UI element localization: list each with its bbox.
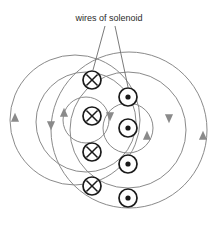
- dot-icon: [125, 125, 130, 130]
- dot-icon: [125, 161, 130, 166]
- wire-into-page-symbol-2: [83, 107, 101, 125]
- caption-wires-of-solenoid: wires of solenoid: [74, 13, 142, 23]
- arrow-far-right-up: [199, 131, 207, 140]
- wire-out-of-page-symbol-1: [119, 88, 137, 106]
- leader-to-cross-wire: [93, 26, 105, 70]
- wire-into-page-symbol-3: [83, 143, 101, 161]
- leader-to-dot-wire: [115, 26, 128, 87]
- wire-out-of-page-symbol-2: [119, 119, 137, 137]
- dot-icon: [125, 195, 130, 200]
- magnetic-field-lines-group: [10, 52, 207, 208]
- dot-icon: [125, 94, 130, 99]
- arrow-inner-right-down: [106, 112, 114, 121]
- arrow-inner-left-up: [60, 108, 68, 117]
- arrow-outer-right-inner-down: [47, 121, 55, 130]
- wire-into-page-symbol-1: [83, 71, 101, 89]
- wire-out-of-page-symbol-3: [119, 155, 137, 173]
- wire-into-page-symbol-4: [83, 177, 101, 195]
- arrow-outer-right-down: [165, 114, 173, 123]
- wire-out-of-page-symbol-4: [119, 189, 137, 207]
- arrow-outer-left-up: [11, 113, 19, 122]
- solenoid-field-figure: wires of solenoid: [0, 0, 219, 225]
- figure-canvas: wires of solenoid: [0, 0, 219, 225]
- arrow-inner-right-up: [143, 131, 151, 140]
